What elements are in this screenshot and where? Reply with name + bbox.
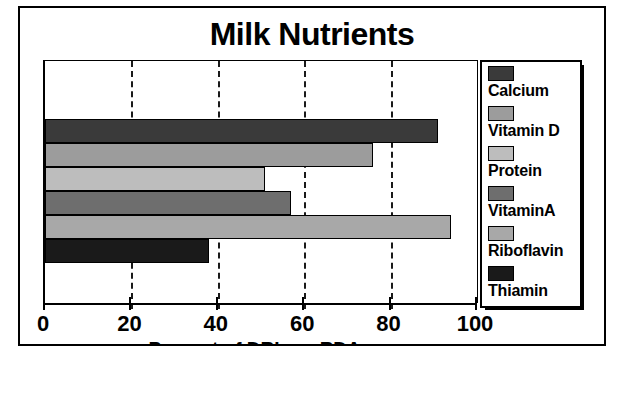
legend-swatch-protein bbox=[488, 146, 514, 161]
x-tick-label-60: 60 bbox=[290, 311, 314, 337]
x-tick-0 bbox=[43, 297, 45, 310]
x-tick-label-100: 100 bbox=[457, 311, 494, 337]
chart-figure: Milk Nutrients 020406080100 Percent of D… bbox=[18, 6, 606, 346]
bar-protein bbox=[45, 167, 265, 191]
legend-item[interactable]: Calcium bbox=[488, 66, 576, 106]
bar-calcium bbox=[45, 119, 438, 143]
legend-item-list: CalciumVitamin DProteinVitaminARiboflavi… bbox=[488, 66, 576, 306]
gridline-80 bbox=[391, 61, 393, 309]
x-tick-60 bbox=[302, 297, 304, 310]
plot-area bbox=[43, 60, 478, 303]
x-tick-80 bbox=[389, 297, 391, 310]
legend-item[interactable]: Riboflavin bbox=[488, 226, 576, 266]
x-tick-label-40: 40 bbox=[204, 311, 228, 337]
x-tick-label-0: 0 bbox=[37, 311, 49, 337]
legend-label: Thiamin bbox=[488, 281, 576, 300]
legend-swatch-calcium bbox=[488, 66, 514, 81]
legend-swatch-vitamin-d bbox=[488, 106, 514, 121]
legend-label: Vitamin D bbox=[488, 121, 576, 140]
legend-item[interactable]: Vitamin D bbox=[488, 106, 576, 146]
bar-riboflavin bbox=[45, 215, 451, 239]
legend-item[interactable]: Thiamin bbox=[488, 266, 576, 306]
x-axis-line bbox=[43, 303, 477, 305]
bar-vitamina bbox=[45, 191, 291, 215]
legend-label: Riboflavin bbox=[488, 241, 576, 260]
x-tick-100 bbox=[475, 297, 477, 310]
gridline-60 bbox=[304, 61, 306, 309]
plot-inner bbox=[45, 61, 477, 303]
legend-label: VitaminA bbox=[488, 201, 576, 220]
x-tick-40 bbox=[216, 297, 218, 310]
bar-thiamin bbox=[45, 239, 209, 263]
x-tick-label-20: 20 bbox=[117, 311, 141, 337]
legend-label: Calcium bbox=[488, 81, 576, 100]
legend-item[interactable]: VitaminA bbox=[488, 186, 576, 226]
chart-title: Milk Nutrients bbox=[20, 16, 604, 53]
x-axis-title: Percent of DRIs or RDAs bbox=[43, 338, 477, 346]
chart-legend: CalciumVitamin DProteinVitaminARiboflavi… bbox=[480, 60, 582, 308]
legend-label: Protein bbox=[488, 161, 576, 180]
x-tick-20 bbox=[129, 297, 131, 310]
legend-swatch-riboflavin bbox=[488, 226, 514, 241]
legend-swatch-vitamina bbox=[488, 186, 514, 201]
x-tick-label-80: 80 bbox=[376, 311, 400, 337]
legend-item[interactable]: Protein bbox=[488, 146, 576, 186]
legend-swatch-thiamin bbox=[488, 266, 514, 281]
bar-vitamin-d bbox=[45, 143, 373, 167]
